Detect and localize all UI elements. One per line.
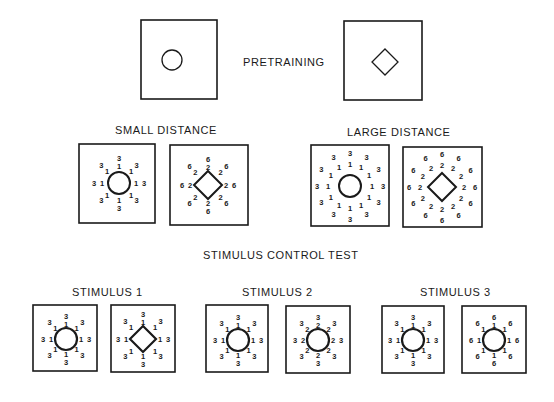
response-count: 3 — [411, 313, 415, 322]
response-count: 3 — [166, 335, 170, 344]
response-count: 1 — [247, 325, 251, 334]
response-count: 2 — [331, 336, 335, 345]
response-count: 1 — [481, 325, 485, 334]
response-count: 1 — [348, 204, 352, 213]
response-count: 1 — [367, 193, 371, 202]
response-count: 3 — [427, 319, 431, 328]
response-count: 2 — [462, 183, 466, 192]
response-count: 6 — [469, 166, 473, 175]
response-count: 1 — [236, 321, 240, 330]
response-count: 3 — [252, 319, 256, 328]
response-count: 1 — [221, 336, 225, 345]
response-count: 2 — [418, 183, 422, 192]
response-count: 3 — [236, 313, 240, 322]
response-count: 1 — [422, 346, 426, 355]
response-count: 1 — [129, 191, 133, 200]
response-count: 3 — [64, 312, 68, 321]
response-count: 1 — [247, 346, 251, 355]
response-count: 3 — [80, 318, 84, 327]
response-count: 3 — [377, 198, 381, 207]
stimulus-3-label: STIMULUS 3 — [420, 286, 491, 298]
response-count: 3 — [259, 336, 263, 345]
response-count: 6 — [508, 319, 512, 328]
response-count: 1 — [507, 336, 511, 345]
response-count: 3 — [377, 165, 381, 174]
response-count: 3 — [80, 351, 84, 360]
response-count: 6 — [469, 199, 473, 208]
response-count: 3 — [220, 319, 224, 328]
response-count: 6 — [456, 154, 460, 163]
response-count: 1 — [337, 163, 341, 172]
response-count: 6 — [188, 199, 192, 208]
response-count: 6 — [469, 336, 473, 345]
response-count: 1 — [105, 167, 109, 176]
response-count: 2 — [305, 325, 309, 334]
small-distance-label: SMALL DISTANCE — [115, 124, 217, 136]
response-count: 1 — [503, 325, 507, 334]
response-count: 3 — [123, 352, 127, 361]
response-count: 3 — [48, 351, 52, 360]
response-count: 3 — [316, 359, 320, 368]
response-count: 2 — [440, 161, 444, 170]
response-count: 2 — [193, 193, 197, 202]
response-count: 2 — [429, 164, 433, 173]
response-count: 6 — [476, 319, 480, 328]
stimulus-1-label: STIMULUS 1 — [72, 286, 143, 298]
response-count: 6 — [224, 199, 228, 208]
response-count: 3 — [348, 215, 352, 224]
response-count: 3 — [252, 352, 256, 361]
response-count: 2 — [316, 321, 320, 330]
pretraining-label: PRETRAINING — [243, 56, 325, 68]
response-count: 2 — [451, 164, 455, 173]
response-count: 3 — [364, 153, 368, 162]
response-count: 3 — [64, 358, 68, 367]
response-count: 3 — [395, 352, 399, 361]
response-count: 2 — [193, 168, 197, 177]
response-count: 1 — [329, 193, 333, 202]
response-count: 3 — [142, 179, 146, 188]
response-count: 1 — [359, 201, 363, 210]
response-count: 3 — [48, 318, 52, 327]
response-count: 1 — [141, 318, 145, 327]
response-count: 3 — [99, 161, 103, 170]
response-count: 1 — [348, 160, 352, 169]
response-count: 6 — [492, 359, 496, 368]
response-count: 1 — [100, 179, 104, 188]
response-count: 3 — [116, 335, 120, 344]
response-count: 3 — [135, 196, 139, 205]
response-count: 3 — [92, 179, 96, 188]
response-count: 1 — [153, 323, 157, 332]
response-count: 6 — [476, 352, 480, 361]
response-count: 1 — [400, 346, 404, 355]
response-count: 1 — [492, 321, 496, 330]
response-count: 1 — [79, 335, 83, 344]
response-count: 1 — [400, 325, 404, 334]
response-count: 1 — [367, 171, 371, 180]
response-count: 1 — [53, 324, 57, 333]
response-count: 2 — [224, 181, 228, 190]
response-count: 6 — [411, 166, 415, 175]
response-count: 1 — [53, 345, 57, 354]
response-count: 3 — [339, 336, 343, 345]
response-count: 2 — [440, 205, 444, 214]
response-count: 1 — [481, 346, 485, 355]
response-count: 3 — [300, 352, 304, 361]
response-count: 3 — [41, 335, 45, 344]
response-count: 1 — [396, 336, 400, 345]
response-count: 3 — [141, 310, 145, 319]
response-count: 3 — [331, 210, 335, 219]
response-count: 3 — [236, 359, 240, 368]
response-count: 1 — [64, 320, 68, 329]
response-count: 1 — [337, 201, 341, 210]
response-count: 6 — [423, 211, 427, 220]
response-count: 3 — [213, 336, 217, 345]
response-count: 3 — [364, 210, 368, 219]
response-count: 1 — [124, 335, 128, 344]
response-count: 3 — [319, 198, 323, 207]
response-count: 3 — [141, 360, 145, 369]
response-count: 3 — [434, 336, 438, 345]
response-count: 2 — [206, 163, 210, 172]
response-count: 2 — [219, 193, 223, 202]
response-count: 3 — [117, 154, 121, 163]
response-count: 3 — [331, 153, 335, 162]
